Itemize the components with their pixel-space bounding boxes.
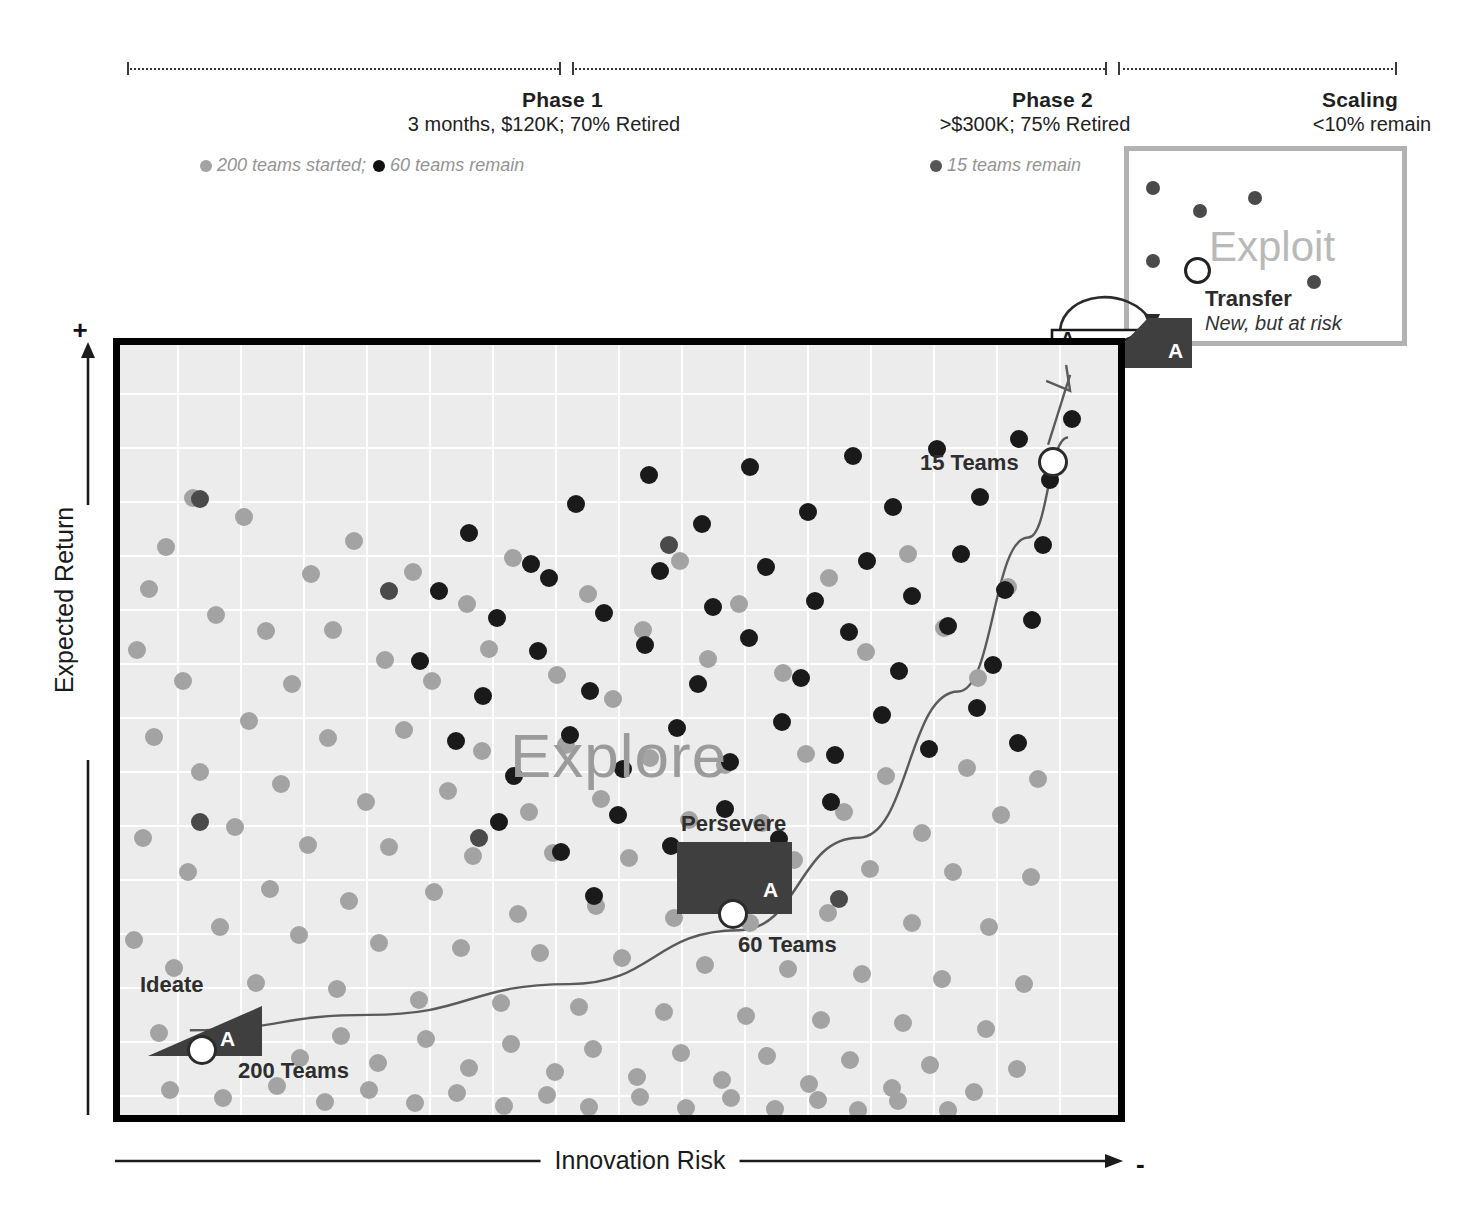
data-point [844, 447, 862, 465]
bracket-cap-right-3 [1395, 62, 1397, 75]
exploit-dot [1248, 191, 1262, 205]
persevere-marker[interactable] [718, 899, 748, 929]
data-point [1010, 430, 1028, 448]
bracket-phase-1 [127, 68, 559, 72]
data-point [531, 944, 549, 962]
data-point [174, 672, 192, 690]
data-point [410, 991, 428, 1009]
exploit-dot [1307, 275, 1321, 289]
phase-2-subtitle: >$300K; 75% Retired [880, 113, 1190, 136]
data-point [546, 1063, 564, 1081]
data-point [740, 629, 758, 647]
data-point [272, 775, 290, 793]
data-point [464, 847, 482, 865]
bracket-phase-2 [572, 68, 1105, 72]
data-point [1023, 611, 1041, 629]
data-point [261, 880, 279, 898]
data-point [552, 843, 570, 861]
data-point [613, 949, 631, 967]
data-point [609, 806, 627, 824]
data-point [207, 606, 225, 624]
data-point [316, 1093, 334, 1111]
bracket-cap-right-1 [559, 62, 561, 75]
data-point [1063, 410, 1081, 428]
data-point [128, 641, 146, 659]
data-point [671, 552, 689, 570]
data-point [360, 1081, 378, 1099]
data-point [369, 1054, 387, 1072]
data-point [640, 466, 658, 484]
data-point [357, 793, 375, 811]
data-point [157, 538, 175, 556]
data-point [958, 759, 976, 777]
data-point [779, 960, 797, 978]
transfer-marker[interactable] [1038, 447, 1068, 477]
data-point [134, 829, 152, 847]
persevere-box-label: A [763, 878, 778, 902]
phase-2-title: Phase 2 [1012, 88, 1093, 112]
data-point [1029, 770, 1047, 788]
explore-watermark: Explore [510, 720, 727, 791]
transfer-count-label: 15 Teams [920, 450, 1019, 476]
phase-2-legend: 15 teams remain [930, 155, 1081, 176]
data-point [470, 829, 488, 847]
data-point [1008, 1060, 1026, 1078]
data-point [226, 818, 244, 836]
phase-1-title: Phase 1 [522, 88, 603, 112]
data-point [620, 849, 638, 867]
scatter-plot[interactable]: Explore Ideate A 200 Teams Persevere A 6… [113, 338, 1125, 1122]
data-point [696, 956, 714, 974]
data-point [240, 712, 258, 730]
data-point [283, 675, 301, 693]
data-point [672, 1044, 690, 1062]
data-point [447, 732, 465, 750]
bracket-cap-left-1 [127, 62, 129, 75]
scaling-title: Scaling [1322, 88, 1398, 112]
data-point [792, 669, 810, 687]
bracket-cap-left-3 [1118, 62, 1120, 75]
data-point [520, 803, 538, 821]
data-point [655, 1003, 673, 1021]
data-point [704, 598, 722, 616]
data-point [495, 1097, 513, 1115]
data-point [660, 536, 678, 554]
data-point [757, 558, 775, 576]
data-point [581, 682, 599, 700]
x-axis-label: Innovation Risk [541, 1146, 740, 1175]
data-point [473, 742, 491, 760]
data-point [822, 793, 840, 811]
data-point [977, 1020, 995, 1038]
data-point [841, 1051, 859, 1069]
bracket-scaling [1118, 68, 1397, 72]
data-point [853, 965, 871, 983]
data-point [737, 1007, 755, 1025]
ideate-marker[interactable] [187, 1035, 217, 1065]
legend-gray-dot-icon [200, 160, 212, 172]
data-point [430, 582, 448, 600]
data-point [840, 623, 858, 641]
data-point [820, 569, 838, 587]
scaling-subtitle: <10% remain [1272, 113, 1472, 136]
y-axis-label: Expected Return [50, 507, 79, 693]
data-point [411, 652, 429, 670]
legend-remain-text: 60 teams remain [390, 155, 524, 176]
legend-started-text: 200 teams started; [217, 155, 366, 176]
data-point [689, 675, 707, 693]
persevere-count-label: 60 Teams [738, 932, 837, 958]
phase-1-legend: 200 teams started; 60 teams remain [200, 155, 524, 176]
data-point [766, 1100, 784, 1118]
data-point [722, 1089, 740, 1107]
data-point [939, 1101, 957, 1119]
persevere-label: Persevere [681, 811, 786, 837]
ideate-count-label: 200 Teams [238, 1058, 349, 1084]
ideate-label: Ideate [140, 972, 204, 998]
data-point [235, 508, 253, 526]
bracket-cap-right-2 [1105, 62, 1107, 75]
data-point [595, 604, 613, 622]
data-point [324, 621, 342, 639]
data-point [345, 532, 363, 550]
data-point [299, 836, 317, 854]
data-point [290, 926, 308, 944]
data-point [302, 565, 320, 583]
data-point [857, 643, 875, 661]
